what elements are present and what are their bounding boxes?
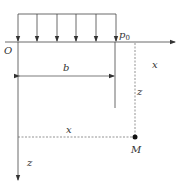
load-label: p0 <box>119 29 130 42</box>
origin-label: O <box>4 45 12 56</box>
uniform-load <box>18 14 116 41</box>
point-m-label: M <box>130 144 142 155</box>
x-axis-label: x <box>152 59 158 70</box>
point-m-icon <box>133 135 138 140</box>
x-distance-label: x <box>66 124 72 135</box>
width-label: b <box>63 62 69 73</box>
z-distance-label: z <box>136 86 143 97</box>
diagram-canvas: O p0 b x z x M z <box>0 0 181 183</box>
z-axis-label: z <box>26 157 33 168</box>
